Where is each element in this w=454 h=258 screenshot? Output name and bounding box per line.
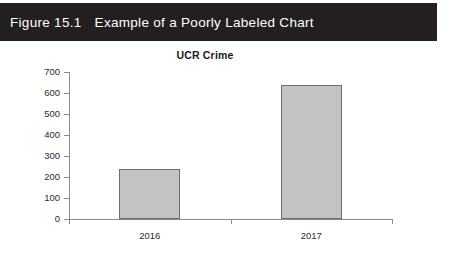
bar-2017 [281,85,342,219]
y-axis-tick-mark [64,114,69,115]
y-axis-tick-label: 500 [18,109,60,119]
y-axis-tick-mark [64,135,69,136]
figure-title: Example of a Poorly Labeled Chart [95,15,314,30]
plot-area: 010020030040050060070020162017 [0,41,454,258]
y-axis-line [69,72,70,220]
y-axis-tick-label: 200 [18,172,60,182]
y-axis-tick-label: 400 [18,130,60,140]
figure-number: Figure 15.1 [10,15,82,30]
x-axis-tick-mark [392,219,393,224]
bar-2016 [119,169,180,219]
ucr-crime-bar-chart: UCR Crime 010020030040050060070020162017 [0,41,454,258]
x-axis-tick-mark [231,219,232,224]
x-axis-tick-label: 2016 [110,231,190,241]
x-axis-tick-label: 2017 [271,231,351,241]
figure-caption-banner: Figure 15.1 Example of a Poorly Labeled … [0,3,437,41]
y-axis-tick-mark [64,177,69,178]
y-axis-tick-label: 600 [18,88,60,98]
y-axis-tick-label: 300 [18,151,60,161]
y-axis-tick-label: 100 [18,193,60,203]
y-axis-tick-label: 0 [18,214,60,224]
x-axis-tick-mark [69,219,70,224]
y-axis-tick-mark [64,198,69,199]
y-axis-tick-label: 700 [18,67,60,77]
y-axis-tick-mark [64,93,69,94]
y-axis-tick-mark [64,72,69,73]
y-axis-tick-mark [64,156,69,157]
